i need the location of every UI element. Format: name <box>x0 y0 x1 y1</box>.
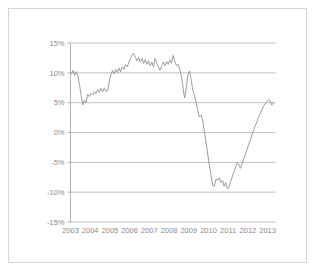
x-axis-tick-label: 2004 <box>82 226 99 235</box>
x-axis-tick-label: 2009 <box>180 226 197 235</box>
x-axis-tick-labels: 2003200420052006200720082009201020112012… <box>62 226 276 235</box>
x-axis-tick-label: 2007 <box>141 226 158 235</box>
y-axis-tick-label: -5% <box>51 158 65 167</box>
y-axis-tick-labels: 15%10%5%0%-5%-10%-15% <box>47 39 65 227</box>
x-axis-tick-label: 2011 <box>220 226 236 235</box>
x-axis-tick-label: 2008 <box>161 226 178 235</box>
y-axis-tick-label: 10% <box>49 69 64 78</box>
x-axis-tick-label: 2003 <box>62 226 79 235</box>
line-chart: 15%10%5%0%-5%-10%-15% 200320042005200620… <box>0 0 316 275</box>
x-axis-tick-label: 2005 <box>102 226 119 235</box>
y-axis-tick-label: 0% <box>54 128 65 137</box>
y-axis-spine <box>68 43 71 222</box>
x-axis-tick-label: 2013 <box>259 226 276 235</box>
x-axis-tick-label: 2006 <box>121 226 138 235</box>
x-axis-tick-label: 2010 <box>200 226 217 235</box>
y-axis-tick-label: 15% <box>49 39 64 48</box>
gridlines <box>71 43 276 222</box>
y-axis-tick-label: 5% <box>54 98 65 107</box>
series-line <box>71 53 273 188</box>
data-series-line <box>71 53 273 188</box>
y-axis-tick-label: -10% <box>47 188 65 197</box>
x-axis-tick-label: 2012 <box>240 226 257 235</box>
